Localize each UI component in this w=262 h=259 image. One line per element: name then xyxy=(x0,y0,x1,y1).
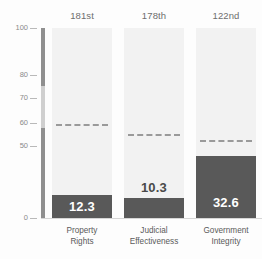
rank-label-property-rights: 181st xyxy=(46,8,118,24)
bar-value-judicial-effectiveness: 10.3 xyxy=(118,180,190,195)
y-tick-label-0: 0 xyxy=(24,214,28,222)
category-label-line-1: Government xyxy=(191,226,261,237)
rank-label-row: 181st 178th 122nd xyxy=(46,8,262,24)
y-tick-mark-100 xyxy=(30,28,37,29)
bar-property-rights: 12.3 xyxy=(52,195,112,218)
y-tick-mark-70 xyxy=(30,98,37,99)
y-tick-mark-80 xyxy=(30,75,37,76)
category-label-government-integrity: Government Integrity xyxy=(190,226,262,256)
column-background xyxy=(52,28,112,218)
category-label-line-1: Judicial xyxy=(119,226,189,237)
y-axis: 100 80 70 60 50 0 xyxy=(0,0,40,259)
category-label-judicial-effectiveness: Judicial Effectiveness xyxy=(118,226,190,256)
y-tick-mark-50 xyxy=(30,146,37,147)
y-tick-label-60: 60 xyxy=(20,119,28,127)
y-tick-label-70: 70 xyxy=(20,94,28,102)
y-tick-mark-60 xyxy=(30,123,37,124)
x-axis-baseline xyxy=(41,218,262,219)
category-label-line-2: Rights xyxy=(47,237,117,248)
bar-judicial-effectiveness xyxy=(124,198,184,218)
category-label-line-1: Property xyxy=(47,226,117,237)
rank-label-government-integrity: 122nd xyxy=(190,8,262,24)
bar-chart: 181st 178th 122nd 100 80 70 60 50 0 12.3 xyxy=(0,0,262,259)
category-label-row: Property Rights Judicial Effectiveness G… xyxy=(46,226,262,256)
reference-line-government-integrity xyxy=(200,140,252,142)
bar-government-integrity: 32.6 xyxy=(196,156,256,218)
bar-group-property-rights: 12.3 xyxy=(46,28,118,218)
category-label-line-2: Effectiveness xyxy=(119,237,189,248)
bar-value-property-rights: 12.3 xyxy=(52,199,112,214)
reference-line-judicial-effectiveness xyxy=(128,134,180,136)
y-tick-label-100: 100 xyxy=(15,24,28,32)
y-tick-label-80: 80 xyxy=(20,71,28,79)
y-axis-spine-highlight xyxy=(41,86,45,128)
rank-label-judicial-effectiveness: 178th xyxy=(118,8,190,24)
category-label-line-2: Integrity xyxy=(191,237,261,248)
plot-area: 12.3 10.3 32.6 xyxy=(46,28,262,218)
reference-line-property-rights xyxy=(56,124,108,126)
bar-group-judicial-effectiveness: 10.3 xyxy=(118,28,190,218)
y-tick-mark-0 xyxy=(30,218,37,219)
category-label-property-rights: Property Rights xyxy=(46,226,118,256)
y-tick-label-50: 50 xyxy=(20,142,28,150)
bar-value-government-integrity: 32.6 xyxy=(196,195,256,210)
bar-group-government-integrity: 32.6 xyxy=(190,28,262,218)
